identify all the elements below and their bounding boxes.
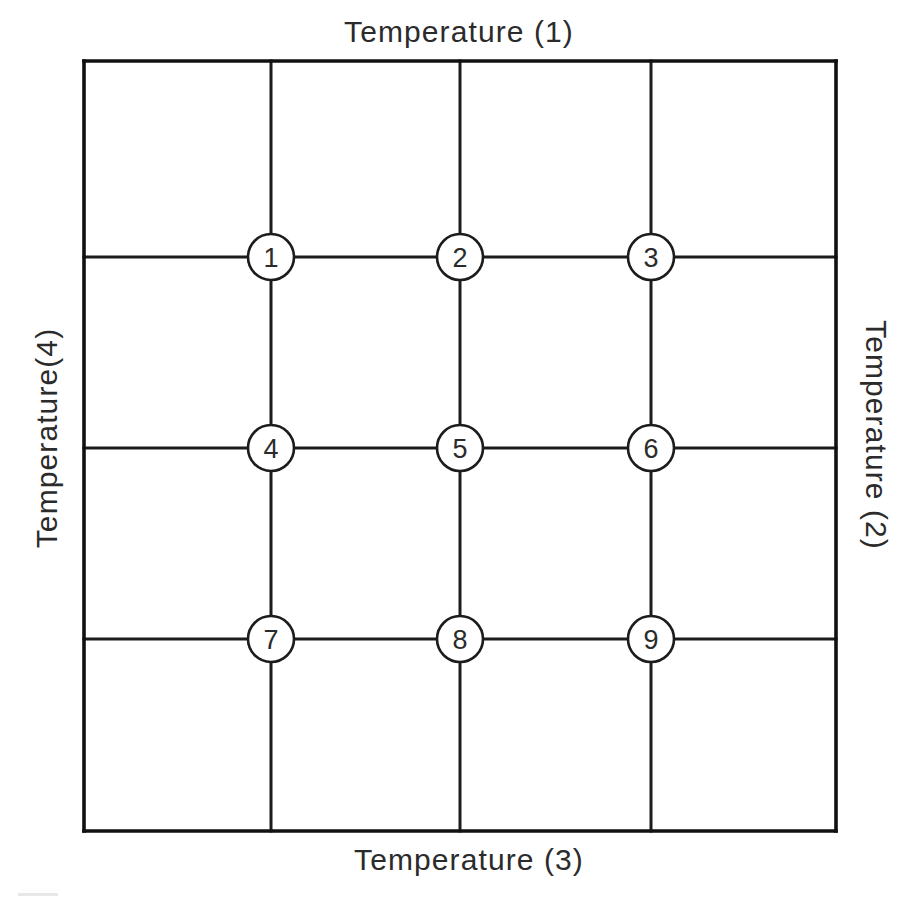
node-label-7: 7: [263, 625, 278, 655]
edge-label-bottom: Temperature (3): [354, 843, 584, 876]
edge-label-top: Temperature (1): [344, 15, 574, 48]
node-4[interactable]: 4: [248, 425, 294, 471]
node-5[interactable]: 5: [437, 425, 483, 471]
node-label-5: 5: [452, 434, 467, 464]
temperature-grid-diagram: 1 2 3 4 5 6 7: [0, 0, 919, 905]
node-label-2: 2: [452, 243, 467, 273]
node-label-4: 4: [263, 434, 278, 464]
node-label-9: 9: [643, 625, 658, 655]
diagram-page: 1 2 3 4 5 6 7: [0, 0, 919, 905]
node-7[interactable]: 7: [248, 616, 294, 662]
edge-label-left: Temperature(4): [30, 328, 63, 548]
edge-label-right: Temperature (2): [860, 320, 893, 550]
node-8[interactable]: 8: [437, 616, 483, 662]
scan-artifact: [18, 893, 58, 896]
node-2[interactable]: 2: [437, 234, 483, 280]
node-label-1: 1: [263, 243, 278, 273]
node-9[interactable]: 9: [628, 616, 674, 662]
node-label-6: 6: [643, 434, 658, 464]
node-6[interactable]: 6: [628, 425, 674, 471]
node-label-3: 3: [643, 243, 658, 273]
node-1[interactable]: 1: [248, 234, 294, 280]
node-3[interactable]: 3: [628, 234, 674, 280]
node-label-8: 8: [452, 625, 467, 655]
